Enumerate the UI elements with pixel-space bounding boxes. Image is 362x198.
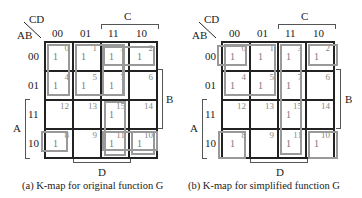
var-a-label: A <box>13 122 21 134</box>
cell-m13: 13 <box>72 99 100 128</box>
minterm-index: 12 <box>237 101 246 111</box>
row-label-00: 00 <box>28 50 39 62</box>
minterm-index: 13 <box>265 101 274 111</box>
cell-m14: 14 <box>305 99 333 128</box>
caption: (a) K-map for original function G <box>22 180 163 191</box>
col-label-00: 00 <box>229 27 240 39</box>
col-label-00: 00 <box>52 27 63 39</box>
var-c-label: C <box>301 10 308 22</box>
var-b-bracket <box>158 69 163 129</box>
group-loop <box>218 131 246 159</box>
group-loop <box>308 44 338 66</box>
cell-m6: 6 <box>128 70 156 99</box>
row-label-01: 01 <box>28 79 39 91</box>
col-label-01: 01 <box>80 27 91 39</box>
var-a-bracket <box>25 99 30 159</box>
cell-m12: 12 <box>221 99 249 128</box>
col-label-01: 01 <box>257 27 268 39</box>
cell-m14: 14 <box>128 99 156 128</box>
var-b-label: B <box>166 93 173 105</box>
var-d-label: D <box>98 166 106 178</box>
kmap-original: CD AB 00 01 11 10 C 00 01 11 10 A B D 01… <box>0 0 181 198</box>
group-loop <box>280 44 302 155</box>
minterm-index: 14 <box>144 101 153 111</box>
minterm-index: 9 <box>93 130 98 140</box>
minterm-index: 6 <box>149 72 154 82</box>
group-loop <box>308 131 338 159</box>
cell-m6: 6 <box>305 70 333 99</box>
cell-m13: 13 <box>249 99 277 128</box>
group-loop <box>103 46 155 66</box>
corner-diagonal <box>197 20 219 40</box>
var-d-label: D <box>276 166 284 178</box>
caption: (b) K-map for simplified function G <box>188 180 340 191</box>
minterm-index: 14 <box>321 101 330 111</box>
row-label-01: 01 <box>205 79 216 91</box>
group-loop <box>47 44 70 96</box>
minterm-index: 6 <box>326 72 331 82</box>
var-b-bracket <box>336 69 341 129</box>
var-c-bracket <box>278 24 336 29</box>
var-c-label: C <box>124 10 131 22</box>
row-label-00: 00 <box>205 50 216 62</box>
group-loop <box>217 45 247 66</box>
minterm-index: 12 <box>60 101 69 111</box>
var-c-bracket <box>101 24 159 29</box>
minterm-index: 13 <box>88 101 97 111</box>
group-loop <box>41 131 68 152</box>
minterm-index: 9 <box>270 130 275 140</box>
var-a-label: A <box>190 122 198 134</box>
corner-diagonal <box>22 20 44 40</box>
cell-m12: 12 <box>44 99 72 128</box>
cell-m9: 9 <box>249 128 277 157</box>
var-a-bracket <box>202 99 207 159</box>
group-loop <box>102 131 158 151</box>
kmap-simplified: CD AB 00 01 11 10 C 00 01 11 10 A B D 01… <box>180 0 361 198</box>
var-b-label: B <box>345 93 352 105</box>
cell-m9: 9 <box>72 128 100 157</box>
